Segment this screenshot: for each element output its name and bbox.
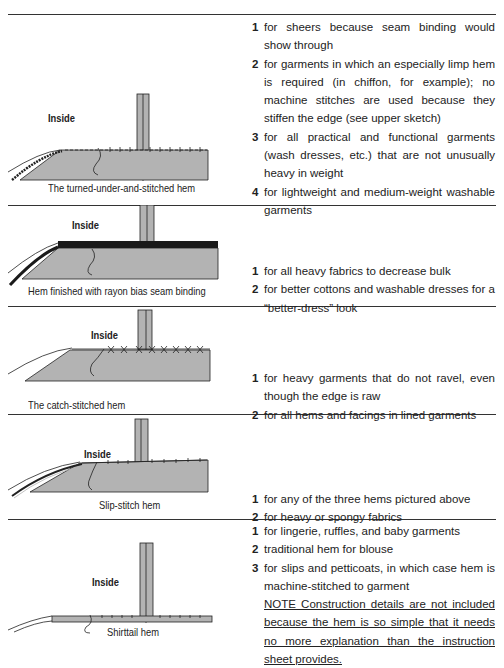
- list-item: 3for all practical and functional garmen…: [252, 128, 495, 183]
- item-text: for garments in which an especially limp…: [264, 58, 495, 125]
- hem-illustration-catch-stitched: Inside The catch-stitched hem: [0, 306, 250, 414]
- hem-illustration-shirttail: Inside Shirttail hem: [0, 519, 250, 651]
- inside-label: Inside: [72, 219, 99, 231]
- item-text: for all heavy fabrics to decrease bulk: [264, 265, 451, 277]
- item-number: 1: [252, 490, 258, 508]
- item-text: for any of the three hems pictured above: [264, 493, 470, 505]
- inside-label: Inside: [84, 448, 111, 460]
- inside-label: Inside: [48, 112, 75, 124]
- inside-label: Inside: [92, 576, 119, 588]
- hem-section-bias-binding: Inside Hem finished with rayon bias seam…: [0, 205, 504, 306]
- item-text: traditional hem for blouse: [264, 543, 393, 555]
- item-number: 4: [252, 183, 258, 201]
- usage-list: 1for lingerie, ruffles, and baby garment…: [252, 522, 495, 668]
- list-item: 1for all heavy fabrics to decrease bulk: [252, 262, 495, 280]
- item-text: for lingerie, ruffles, and baby garments: [264, 525, 460, 537]
- list-item: 1for lingerie, ruffles, and baby garment…: [252, 522, 495, 540]
- list-item: 1for sheers because seam binding would s…: [252, 18, 495, 55]
- figure-caption: Shirttail hem: [107, 626, 159, 638]
- item-number: 2: [252, 280, 258, 298]
- list-item: 1for any of the three hems pictured abov…: [252, 490, 495, 508]
- inside-label: Inside: [91, 329, 118, 341]
- item-text: for all practical and functional garment…: [264, 131, 495, 180]
- item-number: 1: [252, 369, 258, 387]
- item-text: for sheers because seam binding would sh…: [264, 21, 495, 51]
- hem-section-shirttail: Inside Shirttail hem 1for lingerie, ruff…: [0, 519, 504, 651]
- item-number: 1: [252, 522, 258, 540]
- hem-section-turned-under: Inside The turned-under-and-stitched hem…: [0, 0, 504, 205]
- usage-list: 1for sheers because seam binding would s…: [252, 18, 495, 219]
- hem-section-slip-stitch: Inside Slip-stitch hem 1for any of the t…: [0, 414, 504, 519]
- figure-caption: The turned-under-and-stitched hem: [48, 182, 195, 194]
- list-item: 3for slips and petticoats, in which case…: [252, 559, 495, 596]
- item-number: 2: [252, 55, 258, 73]
- list-item: 1for heavy garments that do not ravel, e…: [252, 369, 495, 406]
- item-number: 3: [252, 128, 258, 146]
- list-item: 2for garments in which an especially lim…: [252, 55, 495, 128]
- item-number: 1: [252, 18, 258, 36]
- figure-caption: Hem finished with rayon bias seam bindin…: [28, 285, 206, 297]
- item-number: 1: [252, 262, 258, 280]
- list-item: 2traditional hem for blouse: [252, 540, 495, 558]
- construction-note: NOTE Construction details are not includ…: [252, 595, 495, 668]
- item-number: 3: [252, 559, 258, 577]
- figure-caption: Slip-stitch hem: [99, 499, 160, 511]
- item-number: 2: [252, 540, 258, 558]
- hem-section-catch-stitched: Inside The catch-stitched hem 1for heavy…: [0, 306, 504, 414]
- item-text: for slips and petticoats, in which case …: [264, 562, 495, 592]
- item-text: for heavy garments that do not ravel, ev…: [264, 372, 495, 402]
- hem-illustration-bias-binding: Inside Hem finished with rayon bias seam…: [0, 205, 250, 306]
- figure-caption: The catch-stitched hem: [28, 399, 125, 411]
- hem-illustration-turned-under: Inside The turned-under-and-stitched hem: [0, 0, 250, 205]
- hem-illustration-slip-stitch: Inside Slip-stitch hem: [0, 414, 250, 519]
